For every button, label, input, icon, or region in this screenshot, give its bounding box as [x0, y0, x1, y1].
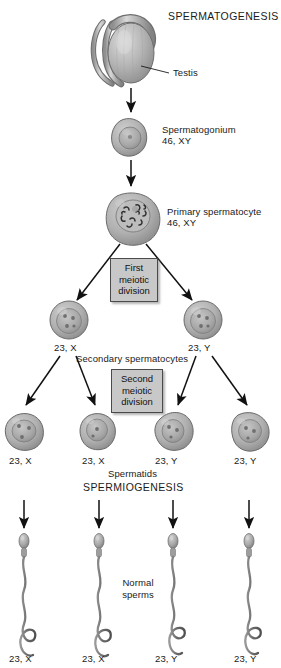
- arrow-secondary-left-to-spermatid-1: [26, 356, 60, 405]
- first-meiotic-division-box: First meiotic division: [110, 258, 158, 302]
- label-spermatid-1: 23, X: [9, 455, 32, 466]
- label-secondary-spermatocyte-right: 23, Y: [188, 342, 211, 353]
- label-spermatogonium-karyotype: 46, XY: [162, 135, 191, 146]
- sperm-cell-1: [19, 534, 35, 656]
- label-sperm-4: 23, Y: [234, 653, 257, 664]
- sperm-cell-4: [244, 534, 261, 655]
- secondary-spermatocyte-right: [184, 301, 222, 339]
- label-spermatogonium-name: Spermatogonium: [162, 124, 236, 135]
- secondary-spermatocyte-left: [50, 301, 88, 339]
- spermiogenesis-title: SPERMIOGENESIS: [83, 482, 184, 493]
- label-normal-sperms-line2: sperms: [117, 589, 159, 600]
- label-spermatids-group: Spermatids: [108, 468, 157, 479]
- label-secondary-spermatocytes-group: Secondary spermatocytes: [76, 353, 188, 364]
- second-meiotic-line-3: division: [117, 396, 157, 408]
- first-meiotic-line-3: division: [116, 285, 152, 297]
- label-primary-spermatocyte-karyotype: 46, XY: [167, 217, 196, 228]
- label-sperm-1: 23, X: [9, 653, 32, 664]
- second-meiotic-division-box: Second meiotic division: [111, 369, 163, 413]
- sperm-cell-2: [94, 534, 111, 657]
- testis-illustration: [93, 19, 169, 84]
- label-normal-sperms-line1: Normal: [117, 577, 159, 588]
- spermatogenesis-diagram: SPERMATOGENESIS Testis Spermatogonium 46…: [0, 0, 281, 668]
- spermatid-cell-2: [80, 414, 115, 450]
- page-title: SPERMATOGENESIS: [168, 11, 279, 22]
- arrow-secondary-right-to-spermatid-4: [212, 356, 247, 405]
- label-spermatid-2: 23, X: [82, 455, 105, 466]
- label-sperm-3: 23, Y: [155, 653, 178, 664]
- label-testis: Testis: [173, 67, 198, 78]
- label-spermatid-4: 23, Y: [234, 455, 257, 466]
- spermatid-cell-4: [232, 413, 269, 452]
- second-meiotic-line-2: meiotic: [117, 385, 157, 397]
- spermatid-cell-3: [155, 412, 193, 450]
- primary-spermatocyte-cell: [106, 193, 160, 245]
- label-primary-spermatocyte-name: Primary spermatocyte: [167, 206, 261, 217]
- second-meiotic-line-1: Second: [117, 373, 157, 385]
- spermatogonium-cell: [112, 119, 147, 157]
- label-sperm-2: 23, X: [82, 653, 105, 664]
- first-meiotic-line-1: First: [116, 262, 152, 274]
- label-spermatid-3: 23, Y: [155, 455, 178, 466]
- spermatid-cell-1: [5, 414, 43, 451]
- diagram-graphics: [0, 0, 281, 668]
- label-secondary-spermatocyte-left: 23, X: [54, 342, 77, 353]
- sperm-cell-3: [168, 534, 185, 655]
- first-meiotic-line-2: meiotic: [116, 274, 152, 286]
